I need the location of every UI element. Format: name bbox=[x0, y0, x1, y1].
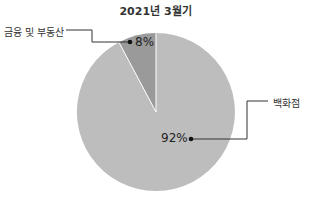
leader-line-finance bbox=[66, 30, 130, 42]
label-department-store: 백화점 bbox=[273, 95, 300, 110]
value-finance-realestate: 8% bbox=[135, 35, 154, 49]
label-finance-realestate: 금융 및 부동산 bbox=[4, 24, 64, 39]
value-department-store: 92% bbox=[161, 131, 188, 145]
